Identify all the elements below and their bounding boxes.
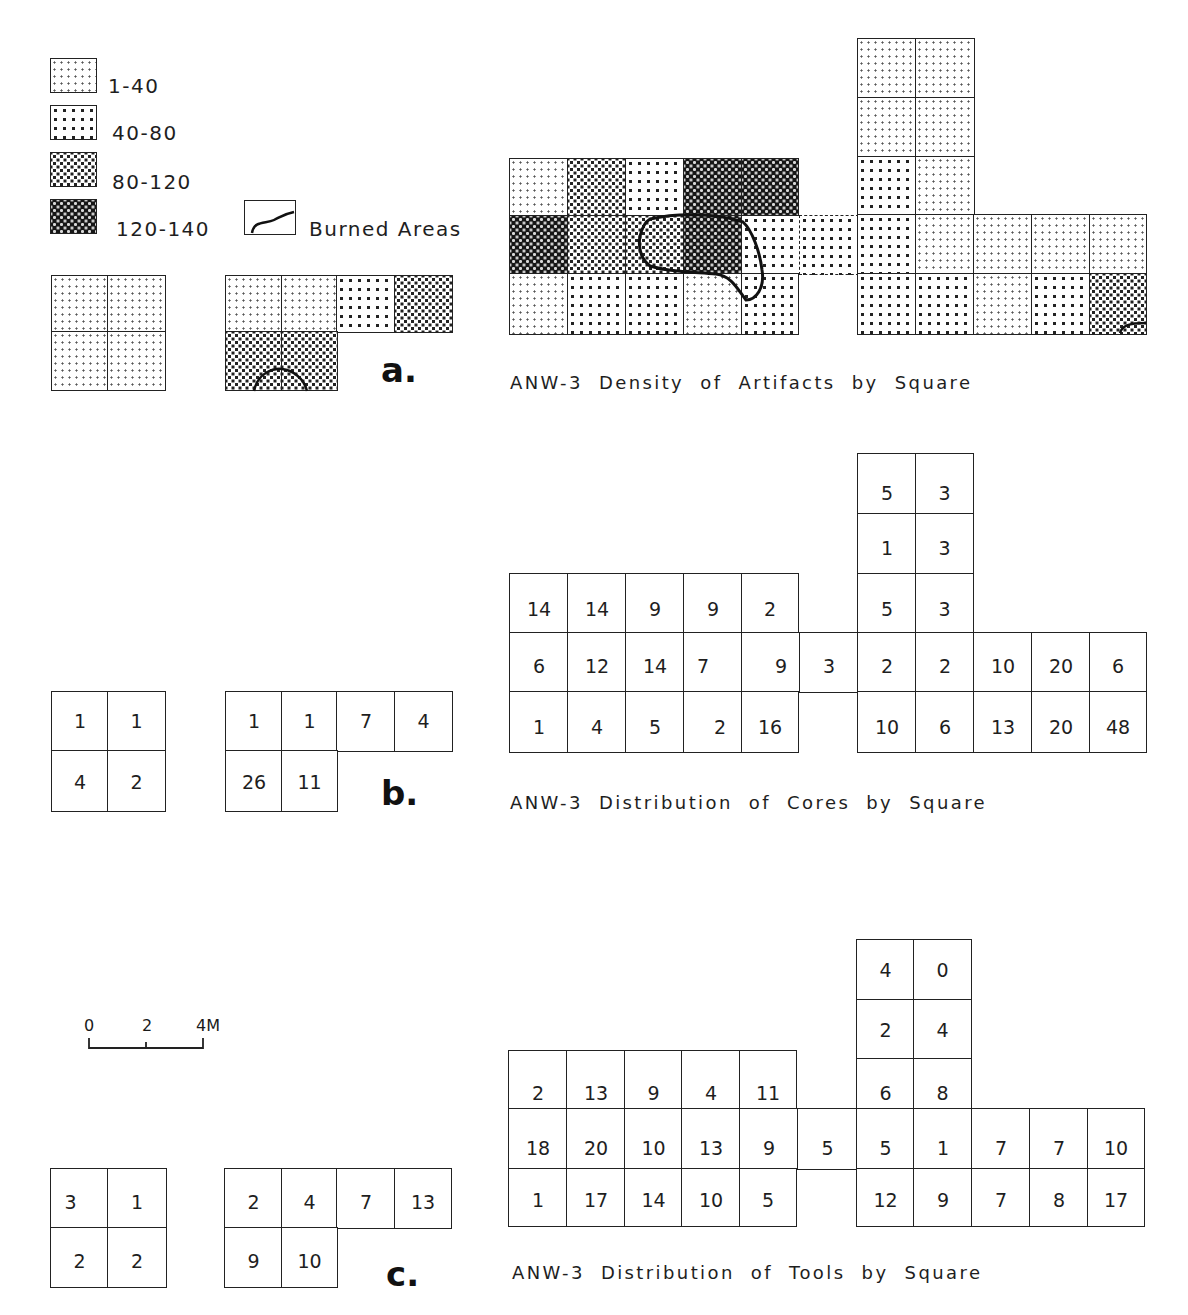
density-square bbox=[509, 215, 569, 275]
cores-square: 11 bbox=[281, 750, 338, 812]
legend-label-40-80: 40-80 bbox=[112, 121, 178, 145]
tools-count: 1 bbox=[914, 1139, 972, 1158]
density-square bbox=[741, 215, 801, 275]
tools-count: 9 bbox=[740, 1139, 798, 1158]
density-square bbox=[107, 275, 166, 333]
cores-count: 14 bbox=[568, 600, 626, 619]
density-square bbox=[567, 273, 627, 335]
cores-count: 5 bbox=[626, 718, 684, 737]
cores-square: 20 bbox=[1031, 632, 1091, 693]
cores-square: 10 bbox=[857, 691, 917, 753]
tools-count: 4 bbox=[282, 1193, 337, 1212]
cores-square: 5 bbox=[857, 573, 917, 634]
density-square bbox=[857, 273, 917, 335]
density-square bbox=[857, 38, 917, 99]
cores-square: 6 bbox=[1089, 632, 1147, 693]
density-square bbox=[973, 214, 1033, 275]
tools-count: 12 bbox=[857, 1191, 914, 1210]
tools-square: 12 bbox=[856, 1168, 915, 1227]
cores-square: 3 bbox=[915, 513, 974, 575]
density-square bbox=[915, 214, 975, 275]
cores-square: 5 bbox=[857, 453, 917, 515]
tools-square: 13 bbox=[566, 1050, 626, 1110]
tools-square: 9 bbox=[913, 1168, 973, 1227]
density-square-connector bbox=[799, 215, 859, 275]
density-square bbox=[915, 156, 975, 216]
cores-count: 2 bbox=[108, 773, 165, 792]
tools-square: 1 bbox=[107, 1168, 167, 1229]
scale-bar-line bbox=[85, 1036, 215, 1056]
cores-count: 14 bbox=[626, 657, 684, 676]
cores-count: 3 bbox=[916, 539, 973, 558]
tools-count: 2 bbox=[51, 1252, 108, 1271]
density-square bbox=[394, 275, 453, 333]
tools-square: 0 bbox=[913, 939, 972, 1001]
density-square bbox=[857, 214, 917, 275]
cores-square: 10 bbox=[973, 632, 1033, 693]
cores-square: 14 bbox=[625, 632, 685, 693]
cores-square: 5 bbox=[625, 691, 685, 753]
caption-cores: ANW-3 Distribution of Cores by Square bbox=[510, 792, 987, 813]
tools-square: 2 bbox=[224, 1168, 283, 1229]
density-square bbox=[683, 158, 743, 217]
burned-line-icon bbox=[244, 200, 296, 235]
tools-square: 4 bbox=[856, 939, 915, 1001]
cores-square: 9 bbox=[625, 573, 685, 634]
tools-count: 10 bbox=[682, 1191, 740, 1210]
tools-square: 2 bbox=[107, 1227, 167, 1288]
tools-count: 3 bbox=[51, 1193, 90, 1212]
density-square bbox=[281, 275, 338, 333]
cores-count: 4 bbox=[52, 773, 108, 792]
legend-label-80-120: 80-120 bbox=[112, 170, 192, 194]
tools-square: 4 bbox=[913, 999, 972, 1060]
tools-count: 7 bbox=[972, 1139, 1030, 1158]
cores-count: 20 bbox=[1032, 657, 1090, 676]
cores-count: 12 bbox=[568, 657, 626, 676]
cores-count: 48 bbox=[1090, 718, 1146, 737]
tools-count: 9 bbox=[625, 1084, 682, 1103]
density-square bbox=[225, 331, 283, 391]
cores-count: 7 bbox=[684, 657, 722, 676]
cores-count: 10 bbox=[858, 718, 916, 737]
tools-count: 10 bbox=[1088, 1139, 1144, 1158]
cores-square: 2 bbox=[741, 573, 799, 634]
cores-count: 1 bbox=[858, 539, 916, 558]
density-square bbox=[1089, 273, 1147, 335]
tools-count: 18 bbox=[509, 1139, 567, 1158]
cores-square: 16 bbox=[741, 691, 799, 753]
cores-square: 20 bbox=[1031, 691, 1091, 753]
tools-count: 7 bbox=[337, 1193, 395, 1212]
tools-square: 17 bbox=[1087, 1168, 1145, 1227]
tools-square: 14 bbox=[624, 1168, 683, 1227]
cores-count: 1 bbox=[226, 712, 282, 731]
cores-count: 6 bbox=[1090, 657, 1146, 676]
cores-square: 4 bbox=[394, 691, 453, 752]
tools-count: 8 bbox=[1030, 1191, 1088, 1210]
tools-count: 0 bbox=[914, 961, 971, 980]
density-square bbox=[915, 38, 975, 99]
tools-square: 17 bbox=[566, 1168, 626, 1227]
cores-count: 2 bbox=[858, 657, 916, 676]
cores-square: 2 bbox=[857, 632, 917, 693]
tools-square: 11 bbox=[739, 1050, 797, 1110]
tools-square: 18 bbox=[508, 1108, 568, 1170]
tools-count: 7 bbox=[972, 1191, 1030, 1210]
cores-square: 2 bbox=[107, 750, 166, 812]
cores-count: 2 bbox=[698, 718, 742, 737]
scale-tick-label: 2 bbox=[142, 1016, 152, 1035]
cores-square: 9 bbox=[741, 632, 801, 693]
cores-square: 6 bbox=[915, 691, 975, 753]
cores-square: 3 bbox=[915, 573, 974, 634]
tools-square: 7 bbox=[1029, 1108, 1089, 1170]
legend-swatch-1-40 bbox=[50, 58, 97, 93]
cores-count: 7 bbox=[337, 712, 395, 731]
tools-square: 20 bbox=[566, 1108, 626, 1170]
tools-count: 5 bbox=[798, 1139, 857, 1158]
density-square bbox=[741, 273, 799, 335]
density-square bbox=[857, 156, 917, 216]
tools-count: 2 bbox=[509, 1084, 567, 1103]
tools-count: 2 bbox=[108, 1252, 166, 1271]
tools-square: 2 bbox=[508, 1050, 568, 1110]
tools-square: 9 bbox=[224, 1227, 283, 1288]
tools-count: 20 bbox=[567, 1139, 625, 1158]
